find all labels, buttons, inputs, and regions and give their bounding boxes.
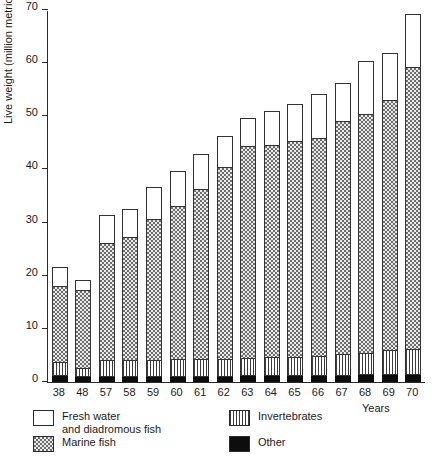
bar-58 — [122, 210, 138, 382]
bar-segment-invertebrates-65 — [287, 357, 303, 377]
legend-item-marine-fish: Marine fish — [33, 436, 116, 452]
bar-segment-fresh-water-and-diadromous-fish-58 — [122, 209, 138, 238]
bar-65 — [287, 105, 303, 382]
bar-segment-marine-fish-60 — [170, 206, 186, 360]
legend-label-invertebrates: Invertebrates — [258, 410, 322, 423]
x-tick-label-70: 70 — [398, 386, 426, 399]
plot-area: 010203040506070 — [47, 8, 425, 383]
bar-segment-invertebrates-48 — [75, 368, 91, 378]
bar-segment-invertebrates-64 — [264, 357, 280, 376]
bar-segment-other-64 — [264, 375, 280, 382]
bar-segment-invertebrates-57 — [99, 360, 115, 376]
bar-segment-invertebrates-38 — [52, 362, 68, 376]
legend-label-other: Other — [258, 436, 286, 449]
bar-segment-invertebrates-60 — [170, 359, 186, 376]
bar-segment-fresh-water-and-diadromous-fish-66 — [311, 94, 327, 140]
bar-segment-other-63 — [240, 375, 256, 382]
bar-segment-other-38 — [52, 375, 68, 382]
bar-69 — [382, 54, 398, 382]
bar-segment-marine-fish-48 — [75, 290, 91, 369]
legend-item-fresh-water: Fresh water and diadromous fish — [33, 410, 161, 435]
x-axis-tick-labels: 38485758596061626364656667686970 — [47, 386, 425, 402]
bar-70 — [405, 15, 421, 382]
bar-segment-fresh-water-and-diadromous-fish-62 — [217, 136, 233, 168]
bar-segment-marine-fish-65 — [287, 141, 303, 358]
bar-segment-fresh-water-and-diadromous-fish-69 — [382, 53, 398, 101]
legend-swatch-fresh-water-icon — [33, 410, 54, 426]
bar-60 — [170, 172, 186, 382]
bar-segment-fresh-water-and-diadromous-fish-68 — [358, 61, 374, 115]
bar-segment-marine-fish-63 — [240, 146, 256, 359]
bar-segment-invertebrates-59 — [146, 360, 162, 377]
bar-segment-fresh-water-and-diadromous-fish-48 — [75, 280, 91, 292]
bar-segment-other-68 — [358, 374, 374, 382]
bar-segment-marine-fish-38 — [52, 286, 68, 363]
bar-63 — [240, 119, 256, 382]
y-tick-label-40: 40 — [26, 160, 38, 171]
legend-item-other: Other — [229, 436, 286, 452]
y-tick-label-20: 20 — [26, 267, 38, 278]
bar-segment-marine-fish-64 — [264, 145, 280, 359]
bar-segment-fresh-water-and-diadromous-fish-61 — [193, 154, 209, 190]
bar-segment-marine-fish-62 — [217, 167, 233, 359]
bar-segment-fresh-water-and-diadromous-fish-65 — [287, 104, 303, 142]
bar-group — [48, 8, 425, 382]
bar-segment-other-66 — [311, 375, 327, 382]
bar-61 — [193, 155, 209, 382]
bar-68 — [358, 62, 374, 382]
bar-segment-marine-fish-58 — [122, 237, 138, 361]
legend-label-marine-fish: Marine fish — [62, 436, 116, 449]
bar-segment-fresh-water-and-diadromous-fish-57 — [99, 215, 115, 244]
bar-segment-invertebrates-67 — [335, 354, 351, 375]
bar-segment-marine-fish-69 — [382, 100, 398, 351]
y-tick-label-10: 10 — [26, 320, 38, 331]
bar-segment-invertebrates-61 — [193, 359, 209, 377]
bar-segment-other-69 — [382, 374, 398, 382]
bar-segment-other-67 — [335, 375, 351, 382]
legend-swatch-other-icon — [229, 436, 250, 452]
bar-segment-invertebrates-70 — [405, 349, 421, 375]
y-axis-title: Live weight (million metric tons) — [2, 108, 14, 124]
bar-segment-fresh-water-and-diadromous-fish-70 — [405, 14, 421, 68]
bar-segment-marine-fish-61 — [193, 189, 209, 360]
chart-figure: 010203040506070 Live weight (million met… — [0, 0, 440, 457]
bar-segment-invertebrates-58 — [122, 360, 138, 376]
legend-swatch-marine-fish-icon — [33, 436, 54, 452]
x-axis-line — [47, 382, 425, 383]
y-tick-label-50: 50 — [26, 107, 38, 118]
bar-48 — [75, 281, 91, 383]
bar-segment-invertebrates-62 — [217, 359, 233, 377]
bar-segment-fresh-water-and-diadromous-fish-59 — [146, 187, 162, 221]
bar-segment-marine-fish-59 — [146, 219, 162, 360]
legend-item-invertebrates: Invertebrates — [229, 410, 322, 426]
bar-segment-fresh-water-and-diadromous-fish-67 — [335, 83, 351, 122]
legend-label-fresh-water: Fresh water and diadromous fish — [62, 410, 161, 435]
y-tick-label-60: 60 — [26, 54, 38, 65]
y-tick-label-30: 30 — [26, 214, 38, 225]
bar-segment-invertebrates-69 — [382, 350, 398, 375]
bar-segment-fresh-water-and-diadromous-fish-64 — [264, 111, 280, 145]
legend-swatch-invertebrates-icon — [229, 410, 250, 426]
bar-64 — [264, 112, 280, 382]
bar-59 — [146, 188, 162, 383]
bar-segment-fresh-water-and-diadromous-fish-38 — [52, 267, 68, 288]
bar-segment-other-65 — [287, 375, 303, 382]
bar-66 — [311, 95, 327, 383]
bar-segment-fresh-water-and-diadromous-fish-63 — [240, 118, 256, 147]
bar-segment-marine-fish-68 — [358, 114, 374, 354]
bar-57 — [99, 216, 115, 382]
bar-segment-invertebrates-63 — [240, 358, 256, 377]
bar-segment-fresh-water-and-diadromous-fish-60 — [170, 171, 186, 208]
bar-segment-marine-fish-67 — [335, 121, 351, 356]
bar-67 — [335, 84, 351, 382]
bar-segment-other-70 — [405, 374, 421, 382]
bar-segment-invertebrates-66 — [311, 356, 327, 376]
bar-segment-marine-fish-70 — [405, 67, 421, 350]
bar-38 — [52, 268, 68, 382]
bar-62 — [217, 137, 233, 382]
bar-segment-marine-fish-66 — [311, 138, 327, 356]
chart-legend: Fresh water and diadromous fish Marine f… — [33, 408, 433, 454]
y-tick-label-0: 0 — [32, 373, 38, 384]
bar-segment-marine-fish-57 — [99, 243, 115, 361]
bar-segment-invertebrates-68 — [358, 353, 374, 375]
